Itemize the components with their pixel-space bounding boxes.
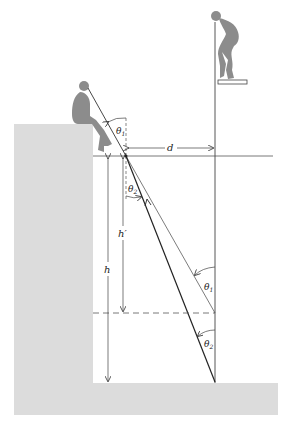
refraction-point (125, 155, 128, 158)
label-h-prime: h′ (118, 228, 127, 239)
theta1-bottom-arc (195, 267, 215, 275)
pool-wall (14, 124, 93, 383)
actual-ray (126, 156, 215, 382)
diving-board (218, 80, 247, 84)
pool-floor (14, 383, 278, 415)
label-theta2-bottom: θ2 (204, 339, 213, 350)
label-h: h (104, 264, 110, 275)
theta2-top-arc (126, 196, 141, 198)
theta1-top-arc (108, 118, 126, 122)
label-d: d (167, 142, 173, 153)
apparent-ray (126, 156, 215, 313)
theta2-bottom-arc (198, 330, 215, 336)
label-theta2-top: θ2 (128, 184, 137, 195)
label-theta1-bottom: θ1 (204, 282, 213, 293)
label-theta1-top: θ1 (116, 126, 125, 137)
refraction-diagram: d h h′ θ1 θ2 θ1 θ2 (0, 0, 288, 423)
